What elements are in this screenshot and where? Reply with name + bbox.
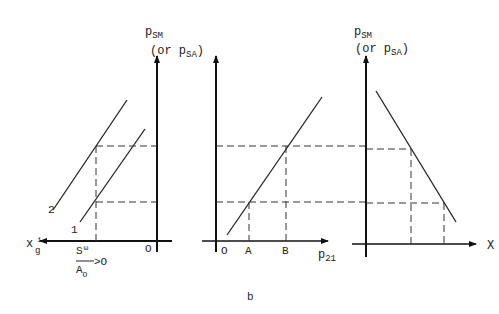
middle-origin-label: O xyxy=(221,245,228,257)
tick-label-B: B xyxy=(282,245,289,257)
left-x-label: x xyxy=(26,237,33,251)
left-x-label-sub: g xyxy=(35,246,40,256)
middle-curve xyxy=(227,97,322,235)
right-y-label: pSM xyxy=(354,25,372,41)
ratio-annotation: Sω >O AO xyxy=(76,243,108,279)
curve-2 xyxy=(53,100,127,210)
right-x-label: X xyxy=(487,239,494,253)
curve-2-label: 2 xyxy=(48,204,55,216)
left-origin-label: O xyxy=(145,243,152,255)
middle-panel: O A B p21 xyxy=(202,56,366,264)
svg-text:Sω: Sω xyxy=(76,243,89,257)
left-y-label: pSM xyxy=(145,25,163,41)
figure-caption: b xyxy=(247,291,254,303)
svg-text:>O: >O xyxy=(94,256,108,268)
left-y-label-alt: (or pSA) xyxy=(150,44,204,60)
tick-label-A: A xyxy=(245,245,252,257)
curve-1 xyxy=(80,129,145,222)
right-panel: pSM (or pSA) X xyxy=(352,25,494,257)
svg-text:AO: AO xyxy=(76,264,88,279)
left-x-label-sup: i xyxy=(37,235,42,244)
middle-x-label: p21 xyxy=(318,248,336,264)
left-panel: pSM (or pSA) 2 1 x i g O Sω >O AO xyxy=(26,25,204,279)
curve-1-label: 1 xyxy=(71,224,78,236)
diagram-figure: pSM (or pSA) 2 1 x i g O Sω >O AO O A B … xyxy=(0,0,499,314)
right-y-label-alt: (or pSA) xyxy=(355,42,409,58)
right-curve xyxy=(376,91,456,222)
